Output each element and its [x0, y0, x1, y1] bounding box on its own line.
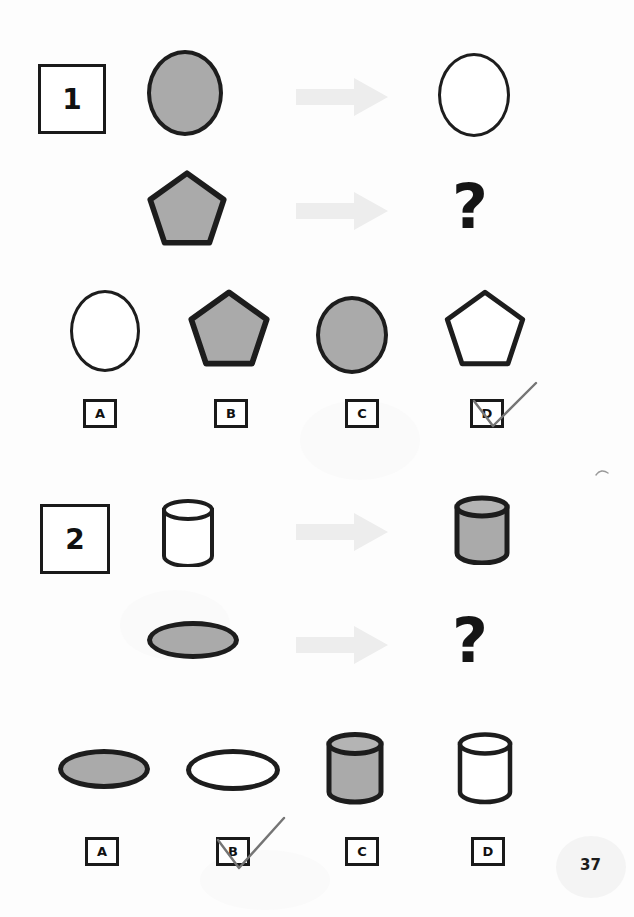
option-b-shape-outline-flat-ellipse[interactable] — [186, 749, 280, 791]
stray-pen-mark — [595, 462, 609, 470]
right-arrow-icon — [296, 192, 388, 230]
option-letter-label: D — [483, 844, 494, 859]
option-letter-box-c[interactable]: C — [345, 399, 379, 428]
pen-checkmark-option-d — [470, 375, 580, 433]
question-mark-placeholder: ? — [452, 176, 488, 238]
right-arrow-icon — [296, 78, 388, 116]
option-letter-box-a[interactable]: A — [83, 399, 117, 428]
right-arrow-icon — [296, 513, 388, 551]
question-source-filled-pentagon — [147, 170, 227, 246]
page-number: 37 — [580, 856, 601, 874]
prompt-result-filled-cylinder — [453, 495, 511, 565]
question-mark-glyph: ? — [452, 604, 488, 677]
puzzle-number-box-1: 1 — [38, 64, 106, 134]
prompt-source-outline-cylinder — [160, 499, 216, 567]
option-d-shape-outline-cylinder[interactable] — [456, 731, 514, 805]
option-b-shape-filled-pentagon[interactable] — [188, 288, 270, 368]
option-c-shape-filled-ellipse[interactable] — [316, 296, 388, 374]
puzzle-number-label: 2 — [65, 523, 84, 556]
option-d-shape-outline-pentagon[interactable] — [444, 288, 526, 368]
puzzle-number-box-2: 2 — [40, 504, 110, 574]
puzzle-number-label: 1 — [62, 83, 81, 116]
option-letter-label: C — [357, 844, 367, 859]
option-letter-label: A — [97, 844, 107, 859]
prompt-source-filled-ellipse — [147, 50, 223, 136]
worksheet-page: 1 ? A — [0, 0, 634, 917]
option-letter-label: B — [226, 406, 236, 421]
question-mark-glyph: ? — [452, 170, 488, 243]
prompt-result-outline-ellipse — [438, 53, 510, 137]
option-letter-box-b[interactable]: B — [214, 399, 248, 428]
option-letter-label: A — [95, 406, 105, 421]
option-a-shape-filled-flat-ellipse[interactable] — [58, 749, 150, 789]
option-a-shape-outline-ellipse[interactable] — [70, 290, 140, 372]
option-c-shape-filled-cylinder[interactable] — [325, 731, 385, 805]
question-source-filled-flat-ellipse — [147, 621, 239, 659]
question-mark-placeholder: ? — [452, 610, 488, 672]
right-arrow-icon — [296, 626, 388, 664]
option-letter-box-a[interactable]: A — [85, 837, 119, 866]
option-letter-box-c[interactable]: C — [345, 837, 379, 866]
pen-checkmark-option-b — [214, 812, 324, 874]
option-letter-box-d[interactable]: D — [471, 837, 505, 866]
option-letter-label: C — [357, 406, 367, 421]
